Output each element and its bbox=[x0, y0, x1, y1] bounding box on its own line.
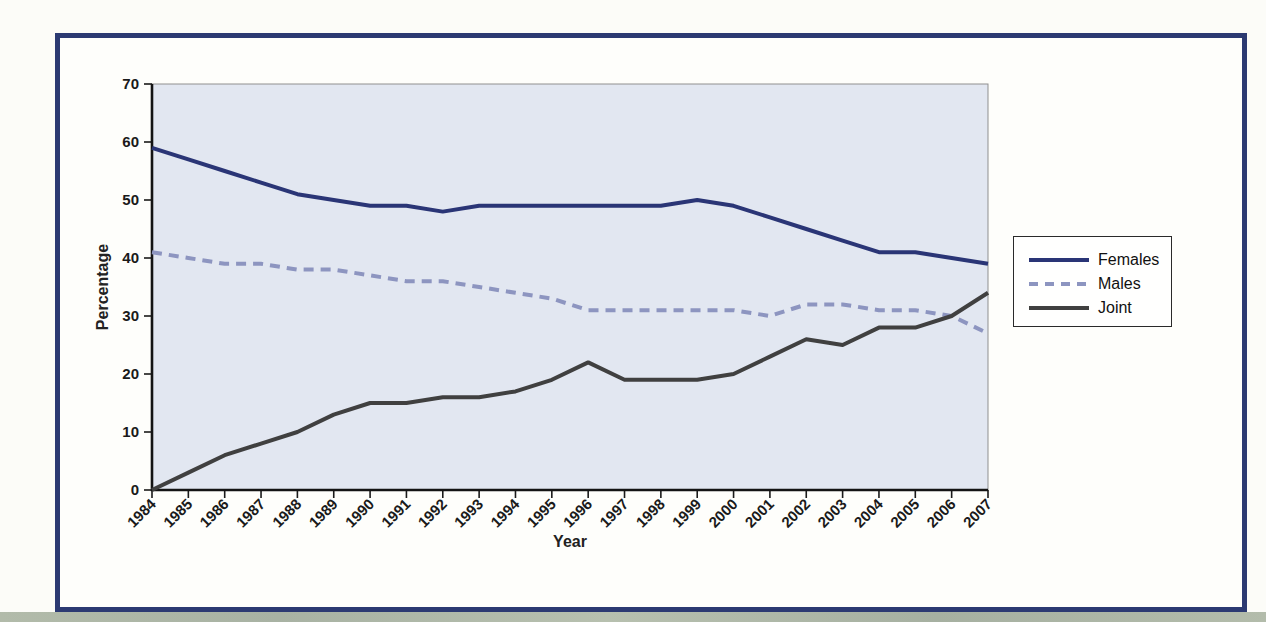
y-axis-tick-label: 50 bbox=[122, 191, 139, 208]
x-axis-tick-label: 2003 bbox=[814, 495, 850, 531]
x-axis-tick-label: 2005 bbox=[887, 495, 923, 531]
legend-label-females: Females bbox=[1098, 252, 1159, 268]
x-axis-tick-label: 1988 bbox=[269, 495, 305, 531]
x-axis-tick-label: 1998 bbox=[632, 495, 668, 531]
y-axis-tick-label: 10 bbox=[122, 423, 139, 440]
legend-item-females: Females bbox=[1029, 248, 1171, 271]
legend-item-males: Males bbox=[1029, 272, 1171, 295]
x-axis-tick-label: 1995 bbox=[523, 495, 559, 531]
x-axis-tick-label: 1984 bbox=[124, 495, 160, 531]
x-axis-tick-label: 2007 bbox=[960, 495, 996, 531]
legend-item-joint: Joint bbox=[1029, 296, 1171, 319]
page-scan-band bbox=[0, 612, 1266, 622]
plot-area bbox=[152, 84, 988, 490]
y-axis-tick-label: 70 bbox=[122, 75, 139, 92]
x-axis-tick-label: 2006 bbox=[923, 495, 959, 531]
x-axis-tick-label: 1999 bbox=[669, 495, 705, 531]
x-axis-tick-label: 2002 bbox=[778, 495, 814, 531]
x-axis-tick-label: 1994 bbox=[487, 495, 523, 531]
x-axis-tick-label: 1989 bbox=[305, 495, 341, 531]
x-axis-tick-label: 1991 bbox=[378, 495, 414, 531]
females-line-swatch bbox=[1029, 258, 1089, 262]
x-axis-tick-label: 1986 bbox=[196, 495, 232, 531]
y-axis-tick-label: 60 bbox=[122, 133, 139, 150]
chart-legend: Females Males Joint bbox=[1013, 236, 1172, 327]
x-axis-tick-label: 1997 bbox=[596, 495, 632, 531]
x-axis-tick-label: 1990 bbox=[342, 495, 378, 531]
y-axis-tick-label: 0 bbox=[131, 481, 139, 498]
x-axis-tick-label: 2004 bbox=[850, 495, 886, 531]
joint-line-swatch bbox=[1029, 306, 1089, 310]
x-axis-tick-label: 1987 bbox=[233, 495, 269, 531]
x-axis-tick-label: 1993 bbox=[451, 495, 487, 531]
y-axis-title: Percentage bbox=[94, 244, 111, 330]
x-axis-title: Year bbox=[553, 533, 587, 550]
y-axis-tick-label: 20 bbox=[122, 365, 139, 382]
legend-label-joint: Joint bbox=[1098, 300, 1132, 316]
legend-label-males: Males bbox=[1098, 276, 1141, 292]
males-line-swatch bbox=[1029, 282, 1089, 286]
x-axis-tick-label: 1992 bbox=[414, 495, 450, 531]
y-axis-tick-label: 30 bbox=[122, 307, 139, 324]
x-axis-tick-label: 2001 bbox=[741, 495, 777, 531]
y-axis-tick-label: 40 bbox=[122, 249, 139, 266]
x-axis-tick-label: 1985 bbox=[160, 495, 196, 531]
x-axis-tick-label: 2000 bbox=[705, 495, 741, 531]
x-axis-tick-label: 1996 bbox=[560, 495, 596, 531]
